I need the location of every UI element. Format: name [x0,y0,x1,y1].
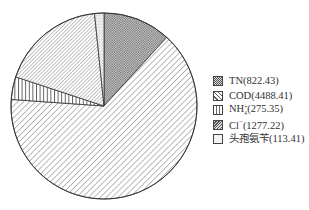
pie-slices [11,13,197,199]
vertical-lines-swatch-icon [213,105,223,115]
legend-item-nh4: NH+4(275.35) [213,103,304,118]
crosshatch-swatch-icon [213,76,223,86]
legend-item-cod: COD(4488.41) [213,89,304,104]
dense-diagonal-swatch-icon [213,120,223,130]
legend-item-cephalexin: 头孢氨苄(113.41) [213,132,304,147]
chart-legend: TN(822.43) COD(4488.41) NH+4(275.35) Cl−… [213,74,304,147]
legend-item-tn: TN(822.43) [213,74,304,89]
diagonal-swatch-icon [213,91,223,101]
stipple-swatch-icon [213,134,223,144]
pie-chart [0,0,210,210]
legend-item-cl: Cl−(1277.22) [213,118,304,133]
